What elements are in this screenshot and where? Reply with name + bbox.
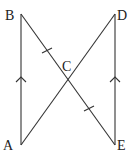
- point-label-b: B: [5, 8, 14, 23]
- tick-mark-bc-icon: [42, 48, 52, 53]
- point-label-e: E: [117, 138, 126, 153]
- tick-mark-ce-icon: [84, 106, 94, 111]
- point-label-c: C: [62, 59, 71, 74]
- geometry-diagram: B D C A E: [0, 0, 134, 156]
- point-label-d: D: [117, 8, 127, 23]
- point-label-a: A: [3, 138, 14, 153]
